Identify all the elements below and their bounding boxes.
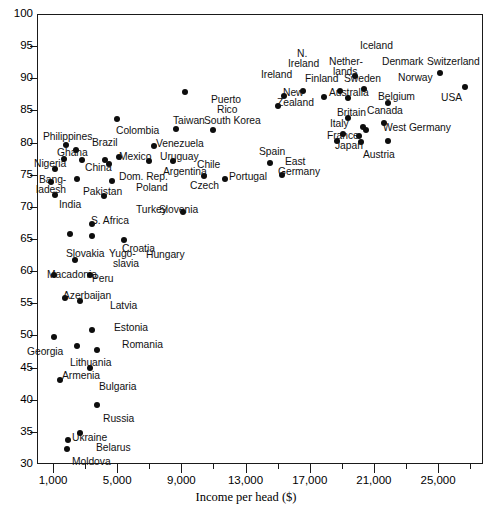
label-domrep: Dom. Rep. [119,172,168,183]
label-yugo-2: slavia [113,259,139,270]
label-venezuela: Venezuela [156,139,204,150]
label-latvia: Latvia [110,301,137,312]
y-axis-tick-label-text: 75 [7,169,33,181]
x-axis-tick-major [181,464,182,473]
x-axis-tick-major [438,464,439,473]
y-axis-tick-label: 40 [0,394,33,406]
x-axis-tick-major [310,464,311,473]
y-axis-tick-label: 30 [0,458,33,470]
x-axis-tick-minor [342,464,343,469]
label-russia: Russia [103,414,134,425]
data-point [182,89,188,95]
label-uruguay: Uruguay [160,152,199,163]
label-norway: Norway [398,73,433,84]
y-axis-tick-label: 90 [0,72,33,84]
label-philippines: Philippines [43,132,92,143]
data-point [74,343,80,349]
y-axis-tick-label: 80 [0,137,33,149]
data-point [267,160,273,166]
label-brazil: Brazil [92,138,117,149]
label-portugal: Portugal [229,172,267,183]
data-point [437,70,443,76]
x-axis-tick-label-text: 9,000 [146,474,216,486]
x-axis-tick-label-text: 1,000 [18,474,88,486]
y-axis-tick-label: 35 [0,426,33,438]
label-belgium: Belgium [378,92,415,103]
label-nigeria: Nigeria [34,159,66,170]
label-estonia: Estonia [114,323,148,334]
y-axis-tick-label: 70 [0,201,33,213]
y-axis-tick-label-text: 35 [7,426,33,438]
label-colombia: Colombia [116,126,159,137]
label-italy: Italy [330,119,349,130]
x-axis-tick-minor [470,464,471,469]
y-axis-tick-label-text: 55 [7,297,33,309]
y-axis-tick-label: 45 [0,362,33,374]
y-axis-tick-label: 65 [0,233,33,245]
y-axis-tick-label-text: 80 [7,137,33,149]
label-canada: Canada [367,106,403,117]
label-romania: Romania [122,340,163,351]
label-bulgaria: Bulgaria [99,382,136,393]
label-czech: Czech [190,181,219,192]
data-point [94,402,100,408]
label-austria: Austria [363,150,395,161]
x-axis-tick-label: 17,000 [275,474,345,486]
y-axis-tick-label-text: 85 [7,104,33,116]
x-axis-tick-major [246,464,247,473]
label-georgia: Georgia [27,347,63,358]
data-point [67,231,73,237]
label-moldova: Moldova [72,457,111,468]
y-axis-tick-label-text: 60 [7,265,33,277]
label-puerto-2: Rico [217,105,237,116]
y-axis-tick-label-text: 95 [7,40,33,52]
y-axis-tick-label: 100 [0,8,33,20]
y-axis-tick-label: 85 [0,104,33,116]
label-westgermany: West Germany [383,123,451,134]
data-point [222,176,228,182]
y-axis-tick-label-text: 90 [7,72,33,84]
x-axis-tick-label: 21,000 [339,474,409,486]
label-denmark: Denmark [382,57,423,68]
label-slovenia: Slovenia [159,205,198,216]
label-ireland: Ireland [261,70,292,81]
y-axis-tick-label: 55 [0,297,33,309]
y-axis-tick-label-text: 50 [7,329,33,341]
label-pakistan: Pakistan [83,187,122,198]
label-ghana: Ghana [57,148,88,159]
label-usa: USA [441,93,462,104]
label-india: India [59,200,81,211]
x-axis-tick-label: 13,000 [211,474,281,486]
y-axis-tick-label-text: 70 [7,201,33,213]
data-point [360,124,366,130]
data-point [173,126,179,132]
label-lithuania: Lithuania [70,358,111,369]
label-japan: Japan [335,141,363,152]
label-poland: Poland [136,183,168,194]
x-axis-tick-major [53,464,54,473]
x-axis-tick-label-text: 21,000 [339,474,409,486]
y-axis-tick-label: 60 [0,265,33,277]
x-axis-tick-label: 5,000 [82,474,152,486]
label-australia: Australia [329,88,369,99]
label-armenia: Armenia [62,371,100,382]
x-axis-tick-label: 1,000 [18,474,88,486]
label-china: China [85,163,112,174]
y-axis-tick-label: 95 [0,40,33,52]
x-axis-tick-label-text: 17,000 [275,474,345,486]
scatter-chart: 3035404550556065707580859095100 1,0005,0… [0,0,492,513]
x-axis-tick-label-text: 13,000 [211,474,281,486]
label-iceland: Iceland [360,41,393,52]
x-axis-tick-major [374,464,375,473]
data-point [462,84,468,90]
x-axis-tick-label: 9,000 [146,474,216,486]
data-point [89,233,95,239]
label-bangladesh-2: ladesh [36,185,66,196]
y-axis-tick-label: 50 [0,329,33,341]
x-axis-tick-major [117,464,118,473]
label-newzeal-2: Zealand [277,98,314,109]
label-nireland-2: Ireland [288,59,319,70]
y-axis-tick-label-text: 30 [7,458,33,470]
y-axis-tick-label-text: 100 [7,8,33,20]
label-chile: Chile [197,160,220,171]
